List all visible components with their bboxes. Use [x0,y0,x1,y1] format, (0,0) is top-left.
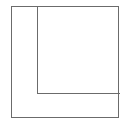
inner-square [37,6,120,94]
